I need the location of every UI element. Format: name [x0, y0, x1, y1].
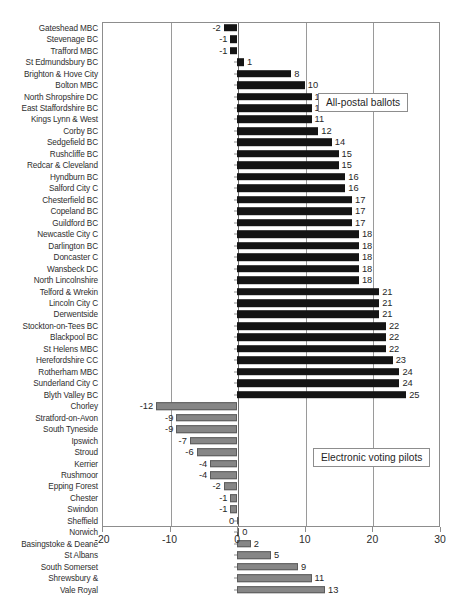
- bar-row: Herefordshire CC23: [0, 355, 464, 366]
- bar: [237, 58, 244, 66]
- bar-value-label: 17: [355, 195, 365, 205]
- bar: [237, 162, 338, 170]
- bar: [237, 391, 406, 399]
- bar-row: Kings Lynn & West11: [0, 114, 464, 125]
- bar-row-label: Stevenage BC: [46, 35, 98, 44]
- bar: [210, 471, 237, 479]
- bar: [237, 379, 399, 387]
- bar-row: Chorley-12: [0, 400, 464, 411]
- bar-row-label: Stroud: [74, 448, 98, 457]
- bar-row: Lincoln City C21: [0, 297, 464, 308]
- bar: [237, 139, 332, 147]
- bar-row: St Edmundsbury BC1: [0, 56, 464, 67]
- bar-row-label: Sedgefield BC: [47, 138, 98, 147]
- bar-value-label: 11: [315, 573, 325, 583]
- bar-row-label: Kerrier: [74, 459, 98, 468]
- bar-value-label: 10: [308, 80, 318, 90]
- bar-value-label: 21: [382, 287, 392, 297]
- bar-row-label: Lincoln City C: [49, 298, 98, 307]
- bar-value-label: 13: [328, 585, 338, 595]
- bar-row-label: Gateshead MBC: [39, 23, 98, 32]
- bar-row-label: St Edmundsbury BC: [26, 58, 98, 67]
- bar: [237, 288, 379, 296]
- bar-row-label: Chorley: [70, 402, 98, 411]
- bar-value-label: 21: [382, 298, 392, 308]
- bar: [176, 414, 237, 422]
- bar: [237, 265, 359, 273]
- bar-row-label: South Tyneside: [43, 425, 98, 434]
- bar-row-label: Rushcliffe BC: [50, 149, 98, 158]
- bar-row: Doncaster C18: [0, 251, 464, 262]
- bar-row: Hyndburn BC16: [0, 171, 464, 182]
- bar-value-label: -12: [140, 401, 153, 411]
- bar-value-label: 18: [362, 229, 372, 239]
- bar-row: Salford City C16: [0, 183, 464, 194]
- bar: [210, 460, 237, 468]
- x-axis-tick-label: -20: [94, 534, 109, 545]
- bar-value-label: -2: [212, 23, 220, 33]
- legend-all-postal-ballots: All-postal ballots: [318, 93, 408, 112]
- bar-row-label: Telford & Wrekin: [40, 287, 98, 296]
- bar-value-label: 15: [342, 149, 352, 159]
- bar-row: Blyth Valley BC25: [0, 389, 464, 400]
- bar-row-label: St Helens MBC: [43, 344, 98, 353]
- bar-row: Ipswich-7: [0, 435, 464, 446]
- bar: [237, 185, 345, 193]
- bar-row: Shrewsbury &11: [0, 573, 464, 584]
- bar-value-label: -1: [219, 34, 227, 44]
- bar: [197, 448, 238, 456]
- x-axis-tick-label: 0: [234, 534, 240, 545]
- bar-row: Sheffield0: [0, 515, 464, 526]
- x-axis: -20-100102030: [0, 527, 464, 557]
- bar-row: Epping Forest-2: [0, 481, 464, 492]
- bar-value-label: 8: [294, 69, 299, 79]
- bar-row-label: Stratford-on-Avon: [35, 413, 98, 422]
- bar: [237, 116, 311, 124]
- bar: [224, 483, 238, 491]
- bar-row-label: Sheffield: [67, 516, 98, 525]
- bar-row-label: Trafford MBC: [51, 46, 98, 55]
- bar-value-label: 18: [362, 275, 372, 285]
- bar: [156, 402, 237, 410]
- bar-value-label: 15: [342, 160, 352, 170]
- bar-row: Sedgefield BC14: [0, 137, 464, 148]
- bar: [237, 127, 318, 135]
- bar-row: South Tyneside-9: [0, 423, 464, 434]
- bar-row-label: Swindon: [67, 505, 98, 514]
- bar-value-label: 16: [348, 172, 358, 182]
- bar-row: Brighton & Hove City8: [0, 68, 464, 79]
- bar-row-label: Epping Forest: [48, 482, 98, 491]
- bar-row: Stevenage BC-1: [0, 33, 464, 44]
- bar-row-label: Vale Royal: [60, 585, 98, 594]
- bar-row: Gateshead MBC-2: [0, 22, 464, 33]
- bar-value-label: 12: [321, 126, 331, 136]
- bar-row: Guildford BC17: [0, 217, 464, 228]
- bar-row-label: Ipswich: [71, 436, 98, 445]
- bar-row: Rushmoor-4: [0, 469, 464, 480]
- x-axis-tick-label: 30: [434, 534, 446, 545]
- bar-row-label: Sunderland City C: [33, 379, 98, 388]
- bar-row: Chesterfield BC17: [0, 194, 464, 205]
- bar: [237, 93, 311, 101]
- bar-value-label: 18: [362, 252, 372, 262]
- bar-value-label: 11: [315, 114, 325, 124]
- bar-row-label: Kings Lynn & West: [31, 115, 98, 124]
- bar: [237, 574, 311, 582]
- bar-row: Sunderland City C24: [0, 378, 464, 389]
- bar-row: Stratford-on-Avon-9: [0, 412, 464, 423]
- bar-row: Trafford MBC-1: [0, 45, 464, 56]
- bar: [237, 517, 239, 525]
- bar-row: Telford & Wrekin21: [0, 286, 464, 297]
- x-axis-tick: [440, 527, 441, 532]
- bar-value-label: -6: [185, 447, 193, 457]
- bar: [230, 494, 237, 502]
- bar-row: Darlington BC18: [0, 240, 464, 251]
- bar-row: North Lincolnshire18: [0, 274, 464, 285]
- bar: [237, 345, 386, 353]
- bar-row-label: Newcastle City C: [37, 230, 98, 239]
- bar: [190, 437, 237, 445]
- bar: [237, 311, 379, 319]
- bar-row-label: Wansbeck DC: [47, 264, 98, 273]
- bar-row: Derwentside21: [0, 309, 464, 320]
- x-axis-tick-label: 10: [299, 534, 311, 545]
